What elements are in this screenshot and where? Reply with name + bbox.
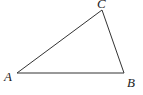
vertex-label-b: B [127, 75, 135, 90]
vertex-label-a: A [3, 69, 12, 84]
edge-ca [17, 10, 102, 73]
vertex-label-c: C [97, 0, 106, 11]
edge-bc [102, 10, 124, 73]
triangle-diagram: A B C [0, 0, 143, 95]
